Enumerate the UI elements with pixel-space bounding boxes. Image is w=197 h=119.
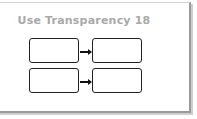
- arrow-row1: [80, 51, 90, 53]
- box-row2-right: [92, 68, 142, 93]
- arrow-row2: [80, 81, 90, 83]
- box-row1-left: [29, 38, 79, 63]
- box-row2-left: [29, 68, 79, 93]
- diagram-title: Use Transparency 18: [0, 14, 172, 27]
- box-row1-right: [92, 38, 142, 63]
